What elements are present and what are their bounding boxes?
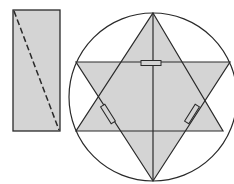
star-in-circle	[69, 13, 234, 181]
folded-rectangle	[13, 10, 60, 131]
geometry-diagram	[0, 0, 234, 184]
small-rect-0	[141, 61, 161, 66]
